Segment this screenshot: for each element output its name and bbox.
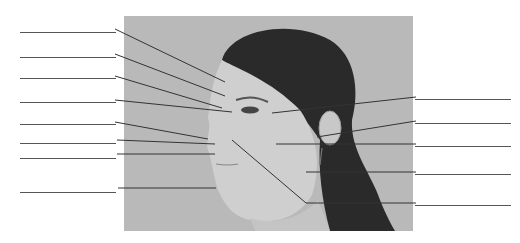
answer-blank-7[interactable] [20,158,116,159]
answer-blank-9[interactable] [415,99,511,100]
answer-blank-12[interactable] [415,174,511,175]
answer-blank-3[interactable] [20,78,116,79]
answer-blank-11[interactable] [415,146,511,147]
answer-blank-8[interactable] [20,192,116,193]
label-leader-lines [0,0,520,243]
answer-blank-6[interactable] [20,143,116,144]
answer-blank-2[interactable] [20,57,116,58]
answer-blank-5[interactable] [20,124,116,125]
answer-blank-1[interactable] [20,32,116,33]
answer-blank-10[interactable] [415,123,511,124]
answer-blank-4[interactable] [20,102,116,103]
answer-blank-13[interactable] [415,205,511,206]
